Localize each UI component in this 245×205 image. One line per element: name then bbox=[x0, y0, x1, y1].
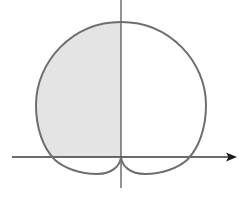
shaded-region bbox=[36, 22, 121, 162]
polar-curve-diagram bbox=[0, 0, 245, 205]
